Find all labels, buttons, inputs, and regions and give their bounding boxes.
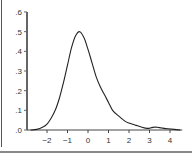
x-tick-label: 1 <box>106 136 111 145</box>
y-tick-label: .4 <box>15 47 22 56</box>
y-axis: .0.1.2.3.4.5.6 <box>15 8 27 135</box>
x-tick-label: 3 <box>147 136 152 145</box>
y-tick-label: .2 <box>15 87 22 96</box>
x-axis: −2−101234 <box>27 130 182 145</box>
density-curve <box>31 32 181 130</box>
density-chart: .0.1.2.3.4.5.6 −2−101234 <box>0 0 192 161</box>
x-tick-label: −2 <box>42 136 52 145</box>
y-tick-label: .3 <box>15 67 22 76</box>
y-tick-label: .6 <box>15 8 22 17</box>
x-tick-label: 4 <box>168 136 173 145</box>
y-tick-label: .0 <box>15 126 22 135</box>
x-tick-label: −1 <box>63 136 73 145</box>
y-tick-label: .5 <box>15 28 22 37</box>
x-tick-label: 0 <box>86 136 91 145</box>
x-tick-label: 2 <box>127 136 132 145</box>
y-tick-label: .1 <box>15 106 22 115</box>
